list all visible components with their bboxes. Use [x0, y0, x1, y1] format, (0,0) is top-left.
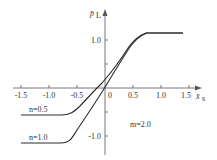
x-tick-label: 1.5 [181, 91, 191, 100]
svg-text:L: L [96, 11, 101, 20]
chart: -1.5 -1.0 -0.5 0 0.5 1.0 1.5 1.0 -1.0 x̄… [0, 0, 217, 160]
y-axis-label: p̄ L [89, 9, 101, 20]
x-axis-arrow-icon [195, 86, 202, 91]
svg-text:x̄: x̄ [195, 92, 200, 101]
x-tick-label: -1.0 [43, 91, 56, 100]
y-tick-label: -1.0 [88, 132, 101, 141]
y-tick-label: 1.0 [91, 36, 101, 45]
parameter-annotation: m=2.0 [130, 120, 151, 129]
svg-text:p̄: p̄ [89, 9, 94, 18]
series-label-n-0.5: n=0.5 [29, 105, 48, 114]
y-axis-arrow-icon [103, 9, 108, 16]
x-tick-label: 0 [108, 91, 112, 100]
curve-n-0.5 [21, 33, 183, 115]
series-label-n-1.0: n=1.0 [29, 133, 48, 142]
x-tick-label: -0.5 [71, 91, 84, 100]
x-axis-label: x̄ s [195, 92, 205, 103]
x-tick-label: 0.5 [128, 91, 138, 100]
x-tick-label: 1.0 [156, 91, 166, 100]
svg-text:s: s [202, 94, 205, 103]
x-tick-label: -1.5 [15, 91, 28, 100]
